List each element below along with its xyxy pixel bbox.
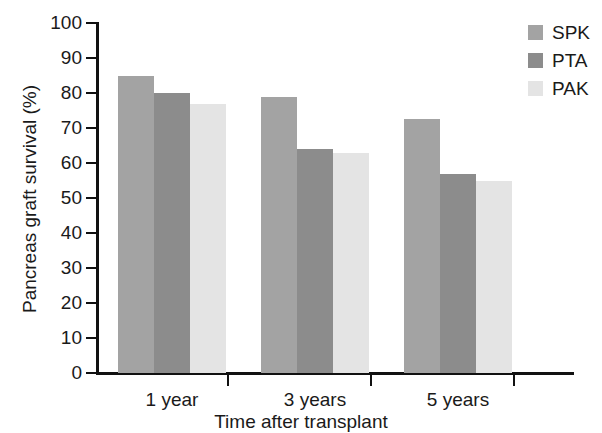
bar-spk-1-year	[118, 76, 154, 374]
bar-spk-5-years	[404, 119, 440, 373]
x-axis-tick-label: 1 year	[146, 389, 199, 411]
legend-label: SPK	[552, 23, 590, 42]
bar-pak-3-years	[333, 153, 369, 374]
x-axis-tick	[513, 375, 515, 386]
x-axis-tick-label: 3 years	[284, 389, 346, 411]
x-axis-tick-label: 5 years	[427, 389, 489, 411]
legend: SPKPTAPAK	[528, 18, 590, 102]
y-axis-tick-label: 100	[18, 12, 82, 34]
y-axis-tick	[86, 57, 96, 59]
y-axis-tick	[86, 92, 96, 94]
y-axis-tick	[86, 197, 96, 199]
y-axis-tick	[86, 22, 96, 24]
bar-pta-5-years	[440, 174, 476, 374]
legend-label: PAK	[552, 79, 589, 98]
bar-pak-5-years	[476, 181, 512, 374]
bar-spk-3-years	[261, 97, 297, 374]
legend-swatch-icon	[528, 25, 543, 40]
y-axis-tick	[86, 232, 96, 234]
x-axis-tick	[227, 375, 229, 386]
legend-item-spk: SPK	[528, 18, 590, 46]
y-axis-tick	[86, 267, 96, 269]
bar-pak-1-year	[190, 104, 226, 374]
bars-layer	[99, 23, 575, 373]
y-axis-tick-label: 90	[18, 47, 82, 69]
x-axis-tick	[370, 375, 372, 386]
y-axis-tick	[86, 127, 96, 129]
y-axis-tick-label: 50	[18, 187, 82, 209]
bar-pta-1-year	[154, 93, 190, 373]
y-axis-tick-label: 40	[18, 222, 82, 244]
legend-item-pta: PTA	[528, 46, 590, 74]
y-axis-tick-label: 60	[18, 152, 82, 174]
y-axis-tick-label: 80	[18, 82, 82, 104]
y-axis-tick	[86, 302, 96, 304]
y-axis-tick-label: 30	[18, 257, 82, 279]
legend-item-pak: PAK	[528, 74, 590, 102]
y-axis-tick-label: 0	[18, 362, 82, 384]
legend-swatch-icon	[528, 53, 543, 68]
legend-swatch-icon	[528, 81, 543, 96]
y-axis-tick-label: 20	[18, 292, 82, 314]
y-axis-tick	[86, 162, 96, 164]
y-axis-tick	[86, 337, 96, 339]
y-axis-tick	[86, 372, 96, 374]
y-axis-tick-label: 70	[18, 117, 82, 139]
legend-label: PTA	[552, 51, 588, 70]
y-axis-tick-label: 10	[18, 327, 82, 349]
bar-pta-3-years	[297, 149, 333, 373]
x-axis-title: Time after transplant	[0, 411, 602, 433]
